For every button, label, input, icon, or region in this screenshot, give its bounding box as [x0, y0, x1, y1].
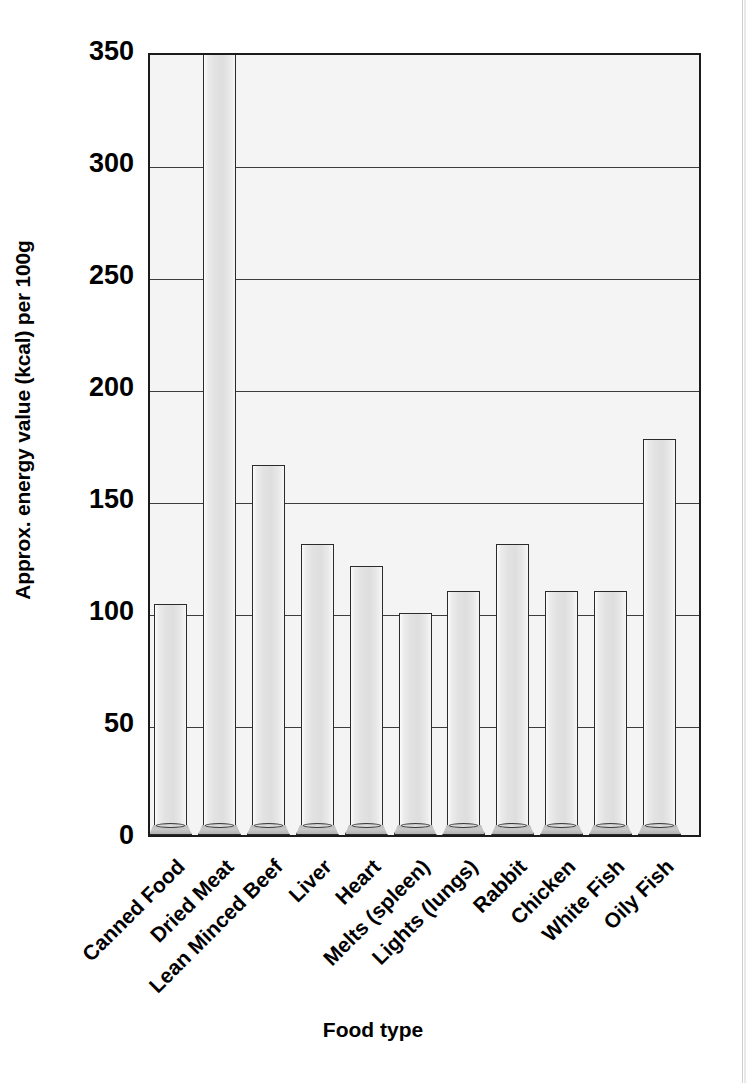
- chart-page: Approx. energy value (kcal) per 100g 0 5…: [0, 0, 746, 1083]
- x-tick-label: Liver: [284, 855, 336, 907]
- x-axis-title: Food type: [0, 1018, 746, 1042]
- x-axis-tick-labels: Canned FoodDried MeatLean Minced BeefLiv…: [0, 0, 746, 1083]
